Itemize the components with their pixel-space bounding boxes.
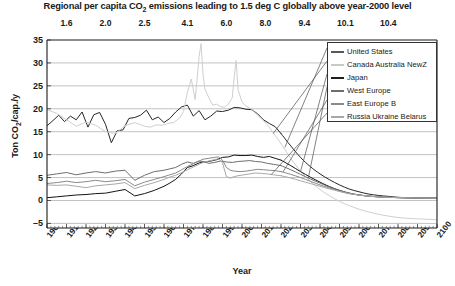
legend-color-swatch: [331, 51, 344, 53]
legend-item[interactable]: Canada Australia NewZ: [331, 58, 436, 71]
legend-color-swatch: [331, 116, 344, 118]
legend-item-label: Canada Australia NewZ: [347, 61, 427, 69]
chart-figure: Regional per capita CO2 emissions leadin…: [0, 0, 455, 286]
legend-item-label: East Europe B: [347, 100, 396, 108]
legend-color-swatch: [331, 103, 344, 105]
legend-color-swatch: [331, 77, 344, 79]
legend-color-swatch: [331, 90, 344, 92]
legend-item[interactable]: East Europe B: [331, 97, 436, 110]
legend-item[interactable]: United States: [331, 45, 436, 58]
legend-item-label: West Europe: [347, 87, 391, 95]
legend-item[interactable]: West Europe: [331, 84, 436, 97]
legend-item-label: United States: [347, 48, 393, 56]
legend-color-swatch: [331, 64, 344, 66]
legend-item[interactable]: Russia Ukraine Belarus: [331, 110, 436, 123]
legend-item[interactable]: Japan: [331, 71, 436, 84]
chart-legend: United StatesCanada Australia NewZJapanW…: [327, 42, 437, 122]
legend-item-label: Russia Ukraine Belarus: [347, 113, 426, 121]
legend-item-label: Japan: [347, 74, 368, 82]
